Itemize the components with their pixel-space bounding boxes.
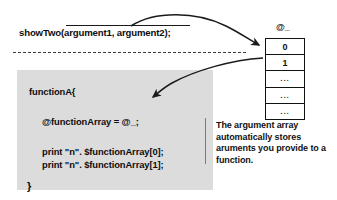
code-line-assignment: @functionArray = @_; bbox=[42, 116, 139, 127]
argument-array-table: 0 1 ... ... ... bbox=[265, 38, 305, 120]
code-side-rule bbox=[205, 118, 206, 164]
array-cell: 1 bbox=[266, 55, 304, 71]
code-line-function-open: functionA{ bbox=[29, 86, 75, 97]
array-cell: ... bbox=[266, 104, 304, 120]
array-label: @_ bbox=[276, 22, 290, 32]
code-line-print-index-1: print "n". $functionArray[1]; bbox=[42, 159, 164, 170]
array-cell: ... bbox=[266, 88, 304, 104]
annotation-text: The argument array automatically stores … bbox=[216, 120, 334, 166]
dashed-divider bbox=[13, 52, 246, 53]
code-block: functionA{ @functionArray = @_; print "n… bbox=[17, 70, 213, 190]
array-cell: 0 bbox=[266, 39, 304, 55]
code-line-print-index-0: print "n". $functionArray[0]; bbox=[42, 146, 164, 157]
code-line-function-close: } bbox=[27, 180, 31, 192]
function-call-text: showTwo(argument1, argument2); bbox=[19, 27, 171, 38]
diagram-canvas: showTwo(argument1, argument2); functionA… bbox=[0, 0, 337, 200]
array-cell: ... bbox=[266, 71, 304, 87]
call-underline bbox=[66, 25, 190, 26]
